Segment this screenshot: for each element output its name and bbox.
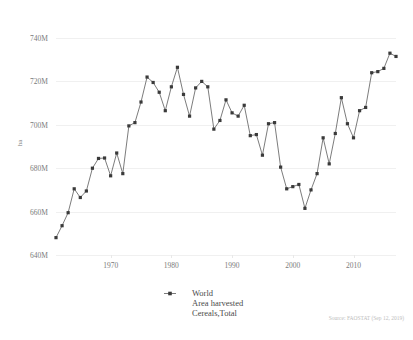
data-point — [249, 134, 252, 137]
data-point — [194, 86, 197, 89]
data-point — [145, 75, 148, 78]
y-tick-label: 740M — [30, 34, 48, 43]
data-point — [364, 106, 367, 109]
data-point — [85, 189, 88, 192]
data-point — [346, 122, 349, 125]
gridlines — [56, 39, 396, 256]
y-axis-labels: 640M660M680M700M720M740M — [30, 34, 48, 260]
data-point — [60, 224, 63, 227]
data-point — [121, 172, 124, 175]
x-axis-labels: 19701980199020002010 — [103, 261, 361, 270]
data-point — [328, 162, 331, 165]
x-tick-label: 2000 — [285, 261, 300, 270]
data-point — [297, 183, 300, 186]
data-point — [127, 124, 130, 127]
data-point — [188, 115, 191, 118]
data-point — [91, 167, 94, 170]
data-point — [224, 98, 227, 101]
data-point — [230, 111, 233, 114]
data-point — [261, 154, 264, 157]
y-tick-label: 720M — [30, 77, 48, 86]
data-point — [218, 119, 221, 122]
data-point — [309, 188, 312, 191]
data-point — [267, 122, 270, 125]
data-point — [200, 80, 203, 83]
line-chart: 640M660M680M700M720M740M 197019801990200… — [0, 0, 413, 340]
data-point — [340, 96, 343, 99]
data-point — [255, 133, 258, 136]
series-markers-world — [54, 52, 397, 240]
x-tick-label: 1990 — [225, 261, 240, 270]
legend: World Area harvested Cereals,Total — [164, 288, 244, 318]
data-point — [237, 115, 240, 118]
y-tick-label: 640M — [30, 251, 48, 260]
data-point — [54, 236, 57, 239]
data-point — [115, 151, 118, 154]
data-point — [103, 156, 106, 159]
data-point — [170, 85, 173, 88]
data-point — [152, 81, 155, 84]
legend-label-item: Cereals,Total — [192, 308, 238, 318]
chart-container: 640M660M680M700M720M740M 197019801990200… — [0, 0, 413, 340]
data-point — [315, 172, 318, 175]
x-tick-label: 1980 — [164, 261, 179, 270]
data-point — [388, 52, 391, 55]
y-tick-label: 700M — [30, 121, 48, 130]
legend-label-world: World — [192, 288, 214, 298]
data-point — [176, 66, 179, 69]
data-point — [376, 70, 379, 73]
data-point — [352, 136, 355, 139]
legend-label-measure: Area harvested — [192, 298, 244, 308]
y-tick-label: 680M — [30, 164, 48, 173]
data-point — [273, 121, 276, 124]
data-point — [285, 187, 288, 190]
data-point — [358, 109, 361, 112]
source-note: Source: FAOSTAT (Sep 12, 2019) — [329, 315, 404, 322]
data-point — [79, 196, 82, 199]
data-point — [322, 136, 325, 139]
data-point — [243, 104, 246, 107]
data-point — [212, 128, 215, 131]
data-point — [370, 71, 373, 74]
data-point — [139, 100, 142, 103]
data-point — [303, 207, 306, 210]
data-point — [109, 174, 112, 177]
data-point — [394, 55, 397, 58]
data-point — [279, 166, 282, 169]
data-point — [291, 185, 294, 188]
data-point — [67, 211, 70, 214]
y-axis-title: ha — [16, 139, 24, 147]
x-tick-label: 1970 — [103, 261, 118, 270]
data-point — [133, 121, 136, 124]
data-point — [206, 85, 209, 88]
data-point — [97, 157, 100, 160]
x-tick-label: 2010 — [346, 261, 361, 270]
data-point — [158, 91, 161, 94]
data-point — [182, 93, 185, 96]
data-point — [334, 132, 337, 135]
y-tick-label: 660M — [30, 208, 48, 217]
series-line-world — [56, 53, 396, 237]
data-point — [164, 109, 167, 112]
data-point — [73, 187, 76, 190]
data-point — [382, 67, 385, 70]
legend-marker-square — [168, 292, 172, 296]
